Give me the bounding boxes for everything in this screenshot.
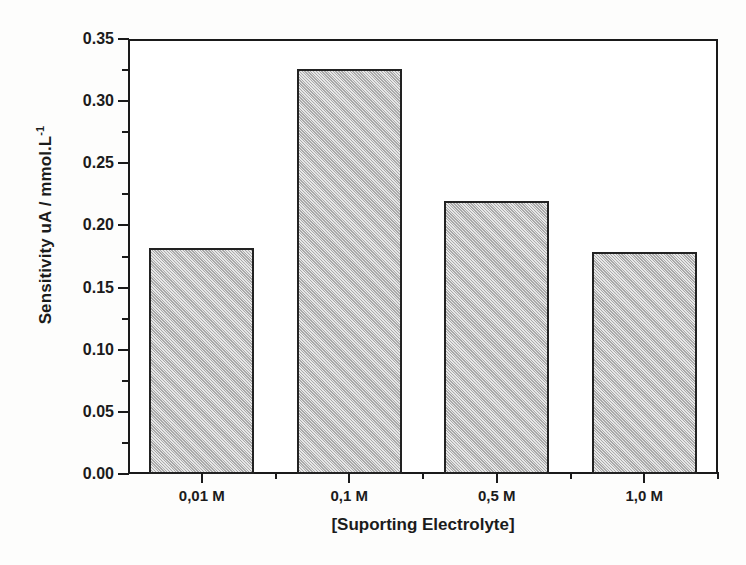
y-axis-tick-label: 0.15 <box>52 279 114 297</box>
y-axis-tick-label: 0.20 <box>52 216 114 234</box>
y-axis-tick-label: 0.10 <box>52 341 114 359</box>
figure-canvas: Sensitivity uA / mmol.L-1 0.000.050.100.… <box>0 0 746 565</box>
bar <box>297 69 402 474</box>
y-axis-title-superscript: -1 <box>34 126 46 136</box>
plot-area <box>128 39 718 474</box>
x-axis-tick-label: 0,1 M <box>279 487 419 504</box>
bar <box>444 201 549 474</box>
y-axis-tick-label: 0.25 <box>52 154 114 172</box>
x-axis-minor-tick <box>717 472 719 479</box>
y-axis-tick-label: 0.35 <box>52 30 114 48</box>
bar <box>149 248 254 474</box>
x-axis-major-tick <box>201 472 203 483</box>
x-axis-major-tick <box>348 472 350 483</box>
x-axis-tick-label: 0,5 M <box>427 487 567 504</box>
x-axis-minor-tick <box>275 472 277 479</box>
y-axis-tick-label: 0.00 <box>52 465 114 483</box>
x-axis-tick-label: 1,0 M <box>574 487 714 504</box>
x-axis-title: [Suporting Electrolyte] <box>128 515 718 535</box>
bar <box>592 252 697 474</box>
x-axis-major-tick <box>496 472 498 483</box>
y-axis-tick-label: 0.30 <box>52 92 114 110</box>
y-axis-tick-label: 0.05 <box>52 403 114 421</box>
x-axis-minor-tick <box>422 472 424 479</box>
x-axis-minor-tick <box>570 472 572 479</box>
x-axis-tick-label: 0,01 M <box>132 487 272 504</box>
x-axis-major-tick <box>643 472 645 483</box>
